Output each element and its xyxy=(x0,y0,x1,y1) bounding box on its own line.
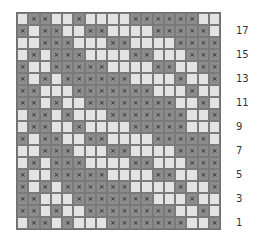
filled-stitch-cell: × xyxy=(130,121,141,133)
empty-stitch-cell xyxy=(17,13,28,25)
cross-stitch-icon: × xyxy=(110,208,116,215)
cross-stitch-icon: × xyxy=(155,136,161,143)
filled-stitch-cell: × xyxy=(164,97,175,109)
cross-stitch-icon: × xyxy=(167,172,173,179)
empty-stitch-cell xyxy=(51,73,62,85)
cross-stitch-icon: × xyxy=(54,64,60,71)
filled-stitch-cell: × xyxy=(107,205,118,217)
cross-stitch-icon: × xyxy=(20,64,26,71)
empty-stitch-cell xyxy=(85,109,96,121)
empty-stitch-cell xyxy=(119,61,130,73)
cross-stitch-icon: × xyxy=(99,184,105,191)
filled-stitch-cell: × xyxy=(141,109,152,121)
filled-stitch-cell: × xyxy=(130,13,141,25)
empty-stitch-cell xyxy=(119,121,130,133)
cross-stitch-icon: × xyxy=(87,88,93,95)
cross-stitch-icon: × xyxy=(155,64,161,71)
empty-stitch-cell xyxy=(141,181,152,193)
empty-stitch-cell xyxy=(141,133,152,145)
cross-stitch-icon: × xyxy=(110,184,116,191)
filled-stitch-cell: × xyxy=(28,97,39,109)
empty-stitch-cell xyxy=(130,37,141,49)
filled-stitch-cell: × xyxy=(186,13,197,25)
empty-stitch-cell xyxy=(96,217,107,229)
filled-stitch-cell: × xyxy=(198,49,209,61)
filled-stitch-cell: × xyxy=(96,205,107,217)
filled-stitch-cell: × xyxy=(164,169,175,181)
filled-stitch-cell: × xyxy=(164,121,175,133)
cross-stitch-icon: × xyxy=(167,64,173,71)
empty-stitch-cell xyxy=(28,145,39,157)
cross-stitch-icon: × xyxy=(110,88,116,95)
cross-stitch-icon: × xyxy=(155,28,161,35)
filled-stitch-cell: × xyxy=(153,97,164,109)
cross-stitch-icon: × xyxy=(54,208,60,215)
cross-stitch-icon: × xyxy=(99,136,105,143)
empty-stitch-cell xyxy=(153,145,164,157)
filled-stitch-cell: × xyxy=(130,85,141,97)
empty-stitch-cell xyxy=(153,37,164,49)
filled-stitch-cell: × xyxy=(62,109,73,121)
filled-stitch-cell: × xyxy=(175,145,186,157)
cross-stitch-icon: × xyxy=(144,52,150,59)
cross-stitch-icon: × xyxy=(121,112,127,119)
cross-stitch-icon: × xyxy=(110,148,116,155)
cross-stitch-icon: × xyxy=(87,64,93,71)
empty-stitch-cell xyxy=(28,133,39,145)
empty-stitch-cell xyxy=(186,205,197,217)
empty-stitch-cell xyxy=(73,145,84,157)
cross-stitch-icon: × xyxy=(212,112,218,119)
empty-stitch-cell xyxy=(209,121,220,133)
empty-stitch-cell xyxy=(119,157,130,169)
cross-stitch-icon: × xyxy=(200,160,206,167)
cross-stitch-icon: × xyxy=(121,88,127,95)
cross-stitch-icon: × xyxy=(76,184,82,191)
filled-stitch-cell: × xyxy=(28,49,39,61)
filled-stitch-cell: × xyxy=(141,49,152,61)
cross-stitch-icon: × xyxy=(65,76,71,83)
row-label: 5 xyxy=(236,169,242,181)
empty-stitch-cell xyxy=(119,169,130,181)
filled-stitch-cell: × xyxy=(119,97,130,109)
filled-stitch-cell: × xyxy=(198,61,209,73)
filled-stitch-cell: × xyxy=(51,157,62,169)
filled-stitch-cell: × xyxy=(141,205,152,217)
cross-stitch-icon: × xyxy=(87,100,93,107)
cross-stitch-icon: × xyxy=(54,160,60,167)
empty-stitch-cell xyxy=(141,145,152,157)
cross-stitch-icon: × xyxy=(133,220,139,227)
cross-stitch-icon: × xyxy=(133,52,139,59)
cross-stitch-icon: × xyxy=(200,28,206,35)
empty-stitch-cell xyxy=(28,61,39,73)
empty-stitch-cell xyxy=(175,169,186,181)
cross-stitch-icon: × xyxy=(200,148,206,155)
filled-stitch-cell: × xyxy=(141,217,152,229)
row-label: 1 xyxy=(236,217,242,229)
cross-stitch-icon: × xyxy=(20,100,26,107)
empty-stitch-cell xyxy=(73,37,84,49)
empty-stitch-cell xyxy=(96,157,107,169)
empty-stitch-cell xyxy=(141,169,152,181)
empty-stitch-cell xyxy=(209,97,220,109)
filled-stitch-cell: × xyxy=(209,49,220,61)
filled-stitch-cell: × xyxy=(119,37,130,49)
cross-stitch-icon: × xyxy=(76,124,82,131)
filled-stitch-cell: × xyxy=(209,217,220,229)
filled-stitch-cell: × xyxy=(96,181,107,193)
cross-stitch-icon: × xyxy=(31,88,37,95)
row-label: 15 xyxy=(236,49,249,61)
cross-stitch-icon: × xyxy=(212,64,218,71)
filled-stitch-cell: × xyxy=(40,73,51,85)
filled-stitch-cell: × xyxy=(96,61,107,73)
filled-stitch-cell: × xyxy=(40,37,51,49)
empty-stitch-cell xyxy=(40,169,51,181)
empty-stitch-cell xyxy=(107,61,118,73)
filled-stitch-cell: × xyxy=(153,133,164,145)
empty-stitch-cell xyxy=(73,205,84,217)
cross-stitch-icon: × xyxy=(99,76,105,83)
cross-stitch-icon: × xyxy=(144,208,150,215)
empty-stitch-cell xyxy=(40,97,51,109)
filled-stitch-cell: × xyxy=(164,205,175,217)
empty-stitch-cell xyxy=(17,37,28,49)
empty-stitch-cell xyxy=(141,61,152,73)
